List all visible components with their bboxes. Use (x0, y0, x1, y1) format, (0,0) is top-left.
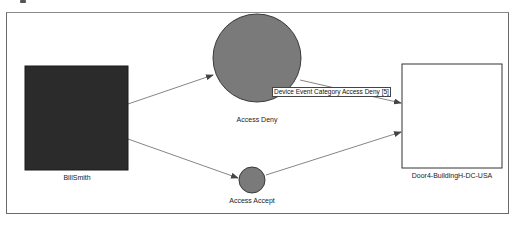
edge-access-accept-door4[interactable] (266, 132, 401, 175)
node-label-access-deny: Access Deny (237, 116, 278, 123)
node-label-door4: Door4-BuildingH-DC-USA (412, 172, 493, 179)
node-billsmith[interactable] (25, 66, 128, 170)
node-door4[interactable] (402, 64, 502, 168)
node-access-accept[interactable] (239, 167, 265, 193)
node-label-access-accept: Access Accept (229, 197, 275, 204)
link-graph (0, 0, 516, 229)
edge-tooltip: Device Event Category Access Deny [5] (272, 87, 391, 97)
edge-billsmith-access-accept[interactable] (128, 139, 238, 178)
edge-billsmith-access-deny[interactable] (128, 75, 213, 104)
node-label-billsmith: BillSmith (63, 174, 90, 181)
